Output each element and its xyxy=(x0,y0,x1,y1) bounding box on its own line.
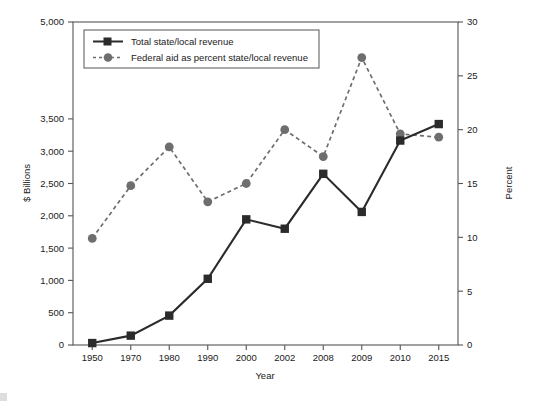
data-point-marker xyxy=(242,215,250,223)
data-point-marker xyxy=(126,181,135,190)
y-left-tick-label: 3,000 xyxy=(40,146,64,157)
x-tick-label: 2015 xyxy=(428,352,449,363)
y-left-tick-label: 1,500 xyxy=(40,243,64,254)
data-point-marker xyxy=(242,179,251,188)
x-tick-label: 1950 xyxy=(82,352,103,363)
y-right-tick-label: 25 xyxy=(467,70,478,81)
data-point-marker xyxy=(434,133,443,142)
x-axis-title: Year xyxy=(255,370,274,381)
y-left-tick-label: 3,500 xyxy=(40,113,64,124)
y-left-tick-label: 0 xyxy=(59,339,64,350)
circle-marker-icon xyxy=(104,53,113,62)
y-left-tick-label: 500 xyxy=(48,307,64,318)
chart-figure: 05001,0001,5002,0002,5003,0003,5005,000 … xyxy=(0,0,534,401)
revenue-line-chart: 05001,0001,5002,0002,5003,0003,5005,000 … xyxy=(0,0,534,401)
x-tick-label: 2008 xyxy=(313,352,334,363)
y-left-tick-label: 2,000 xyxy=(40,210,64,221)
y-right-tick-label: 5 xyxy=(467,286,472,297)
y-left-tick-label: 1,000 xyxy=(40,275,64,286)
data-point-marker xyxy=(435,120,443,128)
y-left-tick-label: 5,000 xyxy=(40,16,64,27)
data-point-marker xyxy=(319,170,327,178)
data-point-marker xyxy=(165,311,173,319)
data-point-marker xyxy=(203,197,212,206)
y-axis-right-title: Percent xyxy=(503,166,514,199)
x-tick-label: 2009 xyxy=(351,352,372,363)
data-point-marker xyxy=(127,331,135,339)
x-tick-label: 1980 xyxy=(159,352,180,363)
y-right-tick-label: 15 xyxy=(467,178,478,189)
x-tick-label: 1990 xyxy=(197,352,218,363)
caption-marker xyxy=(0,393,7,401)
data-point-marker xyxy=(88,234,97,243)
square-marker-icon xyxy=(104,38,112,46)
y-right-tick-label: 20 xyxy=(467,124,478,135)
data-point-marker xyxy=(319,152,328,161)
y-right-tick-label: 0 xyxy=(467,339,472,350)
data-point-marker xyxy=(396,136,404,144)
data-point-marker xyxy=(280,125,289,134)
figure-caption xyxy=(0,393,7,401)
x-tick-label: 1970 xyxy=(120,352,141,363)
x-tick-label: 2000 xyxy=(236,352,257,363)
x-tick-label: 2002 xyxy=(274,352,295,363)
y-right-tick-label: 10 xyxy=(467,232,478,243)
chart-legend: Total state/local revenue Federal aid as… xyxy=(84,30,319,68)
data-point-marker xyxy=(88,339,96,347)
data-point-marker xyxy=(165,142,174,151)
data-point-marker xyxy=(358,208,366,216)
legend-label-federal-aid: Federal aid as percent state/local reven… xyxy=(131,52,308,63)
y-right-tick-label: 30 xyxy=(467,16,478,27)
data-point-marker xyxy=(281,225,289,233)
data-point-marker xyxy=(357,53,366,62)
y-axis-left-title: $ Billions xyxy=(21,164,32,202)
x-tick-label: 2010 xyxy=(390,352,411,363)
data-point-marker xyxy=(204,275,212,283)
y-left-tick-label: 2,500 xyxy=(40,178,64,189)
legend-label-total-revenue: Total state/local revenue xyxy=(131,36,233,47)
